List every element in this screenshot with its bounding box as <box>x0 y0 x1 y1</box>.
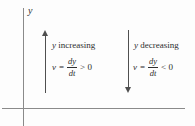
decreasing-eq-numerator: dy <box>148 57 158 68</box>
increasing-eq-equals: = <box>59 63 64 72</box>
decreasing-label-variable: y <box>134 40 138 50</box>
down-arrowhead <box>125 87 131 93</box>
increasing-equation: v = dy dt > 0 <box>52 55 92 79</box>
increasing-eq-denominator: dt <box>69 68 76 78</box>
increasing-eq-numerator: dy <box>67 57 77 68</box>
increasing-label-variable: y <box>52 40 56 50</box>
decreasing-eq-denominator: dt <box>150 68 157 78</box>
increasing-eq-lhs: v <box>52 63 56 72</box>
decreasing-eq-relation: < 0 <box>161 63 173 72</box>
down-arrow-shaft <box>128 30 129 88</box>
decreasing-eq-equals: = <box>140 63 145 72</box>
x-axis-line <box>2 108 185 109</box>
up-arrow-icon <box>42 30 49 93</box>
increasing-label-word: increasing <box>58 40 95 50</box>
decreasing-label: y decreasing <box>134 41 179 50</box>
increasing-label: y increasing <box>52 41 95 50</box>
decreasing-eq-lhs: v <box>133 63 137 72</box>
y-axis-label: y <box>28 6 32 16</box>
increasing-eq-fraction: dy dt <box>67 57 77 77</box>
increasing-eq-relation: > 0 <box>80 63 92 72</box>
diagram-canvas: y y increasing v = dy dt > 0 y decreasin… <box>0 0 195 126</box>
decreasing-equation: v = dy dt < 0 <box>133 55 173 79</box>
decreasing-label-word: decreasing <box>140 40 178 50</box>
decreasing-eq-fraction: dy dt <box>148 57 158 77</box>
down-arrow-icon <box>125 30 132 93</box>
up-arrow-shaft <box>45 35 46 93</box>
